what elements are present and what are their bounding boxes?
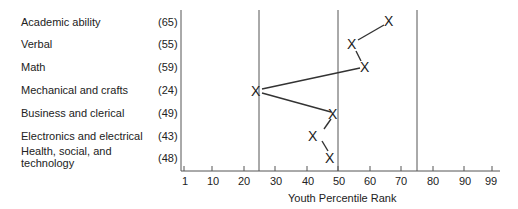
profile-lines — [262, 25, 384, 151]
tick-label-70: 70 — [389, 175, 413, 187]
marker-verbal: X — [347, 36, 356, 52]
marker-electronics-electrical: X — [308, 128, 317, 144]
tick-label-60: 60 — [358, 175, 382, 187]
tick-label-99: 99 — [479, 175, 503, 187]
marker-mechanical-crafts: X — [251, 83, 260, 99]
tick-label-10: 10 — [201, 175, 225, 187]
tick-label-80: 80 — [421, 175, 445, 187]
x-axis-title: Youth Percentile Rank — [288, 192, 396, 204]
x-axis-ticks — [184, 166, 492, 171]
marker-health-social-technology: X — [325, 150, 334, 166]
tick-label-90: 90 — [453, 175, 477, 187]
marker-math: X — [360, 59, 369, 75]
tick-label-1: 1 — [173, 175, 197, 187]
tick-label-40: 40 — [296, 175, 320, 187]
tick-label-20: 20 — [232, 175, 256, 187]
marker-business-clerical: X — [328, 106, 337, 122]
marker-academic-ability: X — [384, 13, 393, 29]
tick-label-50: 50 — [327, 175, 351, 187]
tick-label-30: 30 — [264, 175, 288, 187]
